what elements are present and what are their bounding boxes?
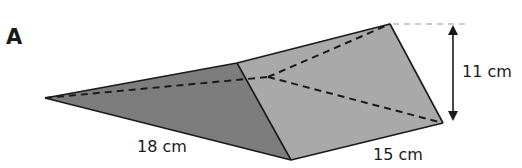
prism-figure: A 18 cm 15 cm 11 cm — [0, 0, 522, 168]
length-label: 18 cm — [137, 139, 187, 155]
prism-drawing — [0, 0, 522, 168]
figure-letter: A — [6, 27, 22, 48]
width-label: 15 cm — [373, 147, 423, 163]
height-label: 11 cm — [462, 64, 512, 80]
